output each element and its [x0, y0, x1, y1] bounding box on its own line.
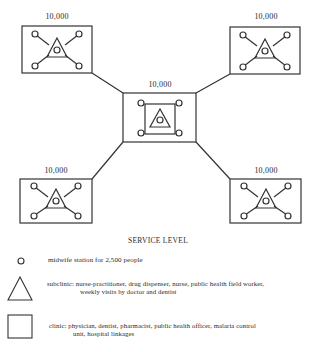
legend-item-midwife-station: midwife station for 2,500 people	[0, 254, 316, 268]
circle-icon	[16, 256, 26, 266]
population-label-bottom-right: 10,000	[236, 166, 296, 175]
clinic-cluster-bottom-left	[20, 179, 92, 223]
population-label-bottom-left: 10,000	[26, 166, 86, 175]
population-label-center: 10,000	[130, 80, 190, 89]
clinic-cluster-top-left	[22, 26, 92, 73]
legend-text-subclinic-line2: weekly visits by doctor and dentist	[80, 287, 177, 296]
population-label-top-right: 10,000	[236, 12, 296, 21]
legend-title: SERVICE LEVEL	[0, 236, 316, 245]
health-service-network-diagram	[0, 0, 316, 230]
triangle-icon	[6, 276, 34, 302]
clinic-cluster-top-right	[230, 27, 300, 74]
legend-text-midwife-station: midwife station for 2,500 people	[48, 256, 143, 265]
population-label-top-left: 10,000	[27, 12, 87, 21]
legend-item-clinic: clinic: physician, dentist, pharmacist, …	[0, 313, 316, 343]
connector-bottom-right	[196, 142, 230, 179]
square-icon	[6, 313, 34, 341]
connector-top-left	[92, 73, 123, 93]
legend-text-clinic-line2: unit, hospital linkages	[73, 329, 134, 338]
connector-top-right	[196, 74, 230, 93]
clinic-cluster-center	[123, 93, 196, 142]
legend-item-subclinic: subclinic: nurse-practitioner, drug disp…	[0, 274, 316, 306]
clinic-cluster-bottom-right	[230, 179, 301, 223]
connector-bottom-left	[92, 142, 123, 179]
